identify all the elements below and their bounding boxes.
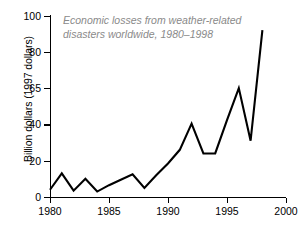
y-tick-label-40: 40 [0, 118, 41, 130]
y-tick-65 [44, 88, 50, 89]
y-tick-80 [44, 52, 50, 53]
economic-losses-line-chart: Billion dollars (1997 dollars) Economic … [0, 0, 302, 239]
y-tick-label-100: 100 [0, 10, 41, 22]
x-tick-1995 [227, 198, 228, 203]
x-tick-label-1980: 1980 [25, 205, 75, 217]
x-tick-label-1990: 1990 [143, 205, 193, 217]
chart-title-line-1: Economic losses from weather-related [63, 14, 278, 28]
x-tick-label-1995: 1995 [202, 205, 252, 217]
x-tick-label-2000: 2000 [261, 205, 302, 217]
x-tick-label-1985: 1985 [84, 205, 134, 217]
chart-title-line-2: disasters worldwide, 1980–1998 [63, 28, 278, 42]
y-tick-40 [44, 124, 50, 125]
x-tick-2000 [286, 198, 287, 203]
y-axis-line [50, 15, 51, 198]
y-tick-label-0: 0 [0, 191, 41, 203]
y-tick-label-80: 80 [0, 46, 41, 58]
x-tick-1985 [109, 198, 110, 203]
y-tick-label-65: 65 [0, 82, 41, 94]
x-tick-1990 [168, 198, 169, 203]
chart-title: Economic losses from weather-related dis… [63, 14, 278, 41]
y-tick-100 [44, 16, 50, 17]
y-tick-label-20: 20 [0, 155, 41, 167]
y-tick-20 [44, 161, 50, 162]
x-tick-1980 [50, 198, 51, 203]
series-line-economic-losses [50, 30, 262, 192]
